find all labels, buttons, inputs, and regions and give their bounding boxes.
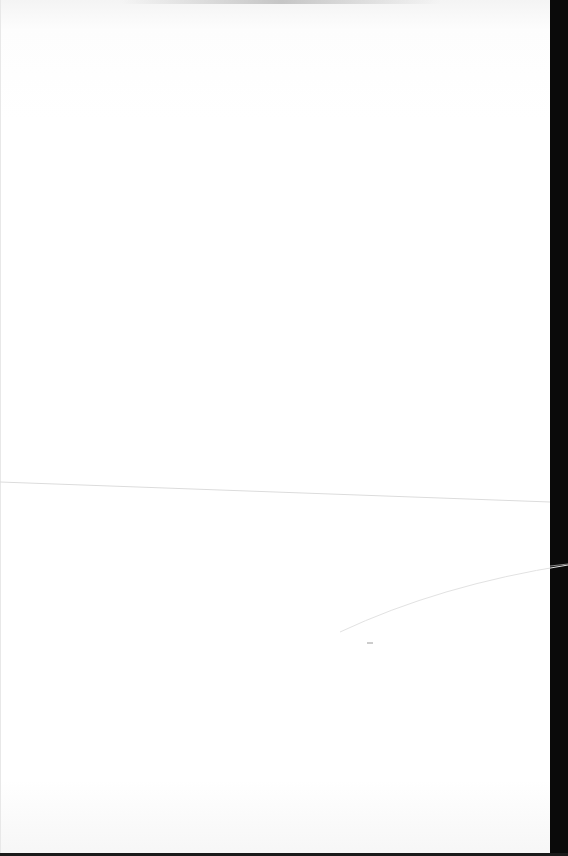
dark-background-edge [550,0,568,856]
blank-page [0,0,551,853]
page-top-shadow [121,0,441,4]
scanned-page-photo [0,0,568,856]
